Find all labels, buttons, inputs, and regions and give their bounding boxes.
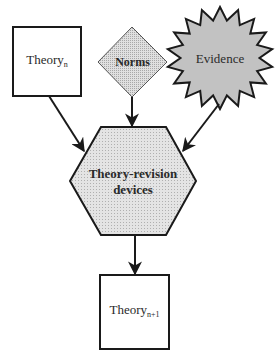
theory-n1-subscript: n+1 [147, 310, 160, 319]
devices-label: Theory-revision devices [70, 166, 196, 198]
theory-n1-label: Theoryn+1 [100, 302, 169, 319]
arrow-evidence-to-devices [183, 104, 219, 151]
devices-text-line1: Theory-revision [70, 166, 196, 182]
evidence-text: Evidence [196, 51, 244, 66]
norms-label: Norms [98, 55, 167, 70]
theory-n-text: Theory [26, 52, 64, 67]
theory-n-label: Theoryn [13, 52, 81, 69]
theory-n-subscript: n [64, 60, 68, 69]
evidence-label: Evidence [180, 51, 260, 67]
devices-text-line2: devices [70, 182, 196, 198]
theory-n1-text: Theory [109, 302, 147, 317]
arrow-theory-n-to-devices [49, 96, 84, 151]
norms-text: Norms [115, 55, 150, 69]
